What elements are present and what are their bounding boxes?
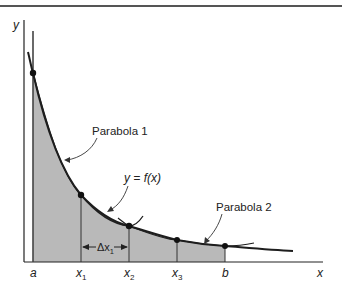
y-axis-label: y bbox=[12, 18, 20, 32]
point-b bbox=[222, 243, 228, 249]
parabola-2-leader bbox=[206, 214, 222, 241]
tick-label-a: a bbox=[30, 266, 37, 280]
point-x1 bbox=[78, 192, 84, 198]
simpsons-rule-diagram: y x a x1 x2 x3 b Parabola 1 y = f(x) Par… bbox=[0, 0, 342, 294]
parabola-1-leader bbox=[67, 138, 97, 160]
tick-label-x2: x2 bbox=[123, 266, 135, 282]
function-arrowhead bbox=[107, 206, 114, 212]
parabola-2-label: Parabola 2 bbox=[216, 201, 272, 213]
parabola-1-label: Parabola 1 bbox=[92, 125, 148, 137]
tick-label-x3: x3 bbox=[171, 266, 183, 282]
parabola-1-arrowhead bbox=[64, 157, 70, 163]
point-a bbox=[30, 70, 36, 76]
tick-label-b: b bbox=[222, 266, 229, 280]
point-x2 bbox=[126, 223, 132, 229]
function-label: y = f(x) bbox=[123, 171, 161, 185]
function-leader bbox=[110, 186, 128, 210]
tick-label-x1: x1 bbox=[75, 266, 87, 282]
x-axis-label: x bbox=[316, 266, 324, 280]
point-x3 bbox=[174, 237, 180, 243]
